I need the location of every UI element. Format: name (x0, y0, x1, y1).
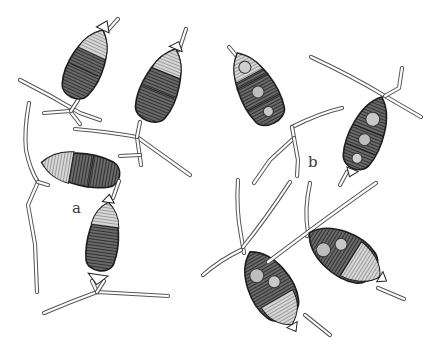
spore-illustration (0, 0, 442, 356)
label-b: b (308, 153, 318, 171)
label-a: a (72, 199, 81, 217)
spore-a1 (20, 13, 123, 124)
spore-a4 (44, 181, 168, 313)
spore-b2 (311, 57, 421, 185)
